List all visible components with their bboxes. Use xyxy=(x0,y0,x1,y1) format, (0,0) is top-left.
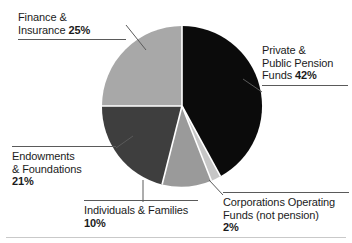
callout-pension-percent: 42% xyxy=(295,69,317,81)
callout-corporations-rule xyxy=(223,192,349,193)
callout-endowments-and-foundations: Endowments & Foundations 21% xyxy=(12,146,116,188)
callout-endowments-percent: 21% xyxy=(12,175,116,188)
callout-pension-line2: Public Pension xyxy=(262,57,348,70)
callout-individuals-and-families: Individuals & Families 10% xyxy=(84,200,198,229)
callout-individuals-line1: Individuals & Families xyxy=(84,204,198,217)
callout-individuals-rule xyxy=(84,200,198,201)
callout-pension-line3: Funds 42% xyxy=(262,69,348,82)
callout-endowments-line2: & Foundations xyxy=(12,163,116,176)
callout-corporations-percent: 2% xyxy=(223,221,349,234)
pie-chart-figure: Finance & Insurance 25% Private & Public… xyxy=(0,0,352,243)
callout-pension-text: Funds xyxy=(262,69,295,81)
figure-baseline-rule xyxy=(6,237,346,238)
callout-endowments-rule xyxy=(12,146,116,147)
leader-line-corporations xyxy=(209,180,223,195)
callout-private-public-pension-funds: Private & Public Pension Funds 42% xyxy=(262,44,348,86)
callout-corporations-line2: Funds (not pension) xyxy=(223,209,349,222)
callout-finance-line1: Finance & xyxy=(18,11,126,24)
callout-finance-text: Insurance xyxy=(18,24,68,36)
callout-finance-line2: Insurance 25% xyxy=(18,24,126,37)
callout-pension-rule xyxy=(262,85,348,86)
callout-pension-line1: Private & xyxy=(262,44,348,57)
callout-corporations-operating-funds: Corporations Operating Funds (not pensio… xyxy=(223,192,349,234)
callout-endowments-line1: Endowments xyxy=(12,150,116,163)
callout-finance-percent: 25% xyxy=(68,24,90,36)
callout-corporations-line1: Corporations Operating xyxy=(223,196,349,209)
callout-individuals-percent: 10% xyxy=(84,217,198,230)
callout-finance-rule xyxy=(18,39,126,40)
callout-finance-and-insurance: Finance & Insurance 25% xyxy=(18,11,126,40)
